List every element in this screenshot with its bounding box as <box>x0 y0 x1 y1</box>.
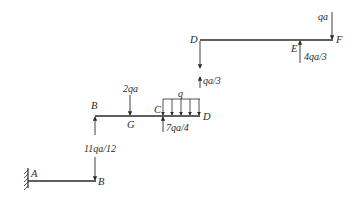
point-label-a: A <box>31 169 37 180</box>
point-label-f: F <box>336 35 342 46</box>
distributed-load-q <box>163 99 200 115</box>
point-label-d-upper: D <box>190 35 198 46</box>
point-label-c: C <box>154 105 161 116</box>
fixed-support-icon <box>24 168 28 190</box>
point-label-e: E <box>291 44 297 55</box>
load-label-7qa-4: 7qa/4 <box>166 123 189 133</box>
point-label-g: G <box>127 120 135 131</box>
point-label-b-upper: B <box>91 101 97 112</box>
point-label-d-lower: D <box>203 112 211 123</box>
load-label-4qa-3: 4qa/3 <box>304 52 327 62</box>
load-label-q: q <box>178 89 183 99</box>
beam-diagram <box>0 0 359 205</box>
load-label-2qa: 2qa <box>123 84 138 94</box>
load-label-qa: qa <box>318 12 328 22</box>
point-label-b-lower: B <box>98 177 104 188</box>
load-label-11qa-12-lower: 11qa/12 <box>84 144 116 154</box>
load-label-qa-3-lower: qa/3 <box>203 76 221 86</box>
